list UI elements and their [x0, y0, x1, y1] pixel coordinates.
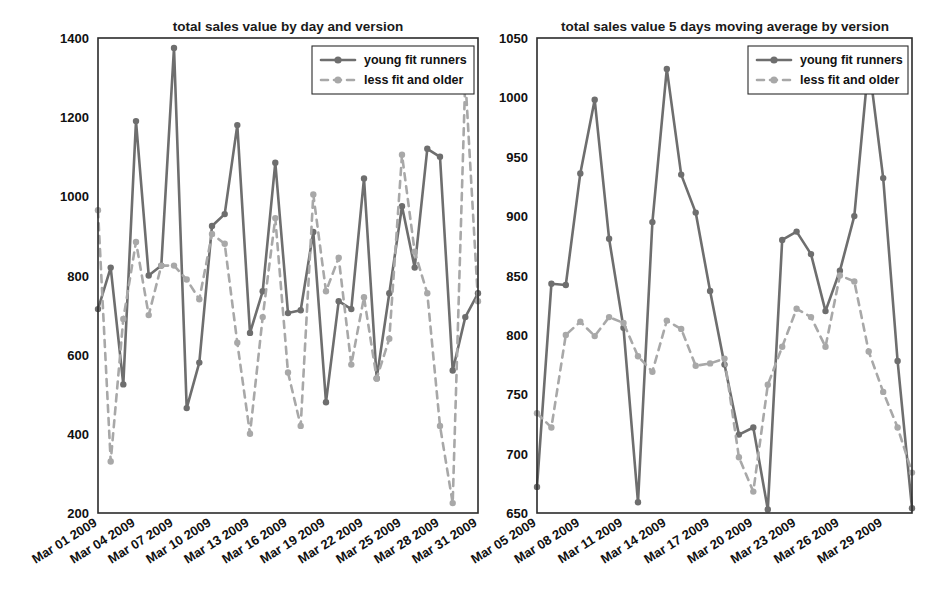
data-point-marker: [386, 336, 392, 342]
data-point-marker: [822, 308, 828, 314]
data-point-marker: [222, 211, 228, 217]
data-point-marker: [133, 239, 139, 245]
data-point-marker: [336, 298, 342, 304]
y-tick-label: 750: [506, 387, 528, 402]
series-line-less-fit-and-older: [98, 78, 478, 504]
y-tick-label: 600: [67, 348, 89, 363]
y-tick-label: 1000: [60, 189, 89, 204]
data-point-marker: [260, 314, 266, 320]
data-point-marker: [750, 488, 756, 494]
data-point-marker: [437, 154, 443, 160]
data-point-marker: [592, 97, 598, 103]
left-y-tick-labels: 200400600800100012001400: [60, 31, 89, 521]
data-point-marker: [808, 314, 814, 320]
data-point-marker: [171, 262, 177, 268]
data-point-marker: [577, 319, 583, 325]
data-point-marker: [837, 272, 843, 278]
chart-panel-left: total sales value by day and version 200…: [0, 0, 500, 595]
data-point-marker: [606, 314, 612, 320]
data-point-marker: [412, 249, 418, 255]
y-tick-label: 800: [506, 328, 528, 343]
data-point-marker: [412, 264, 418, 270]
data-point-marker: [158, 262, 164, 268]
right-legend[interactable]: young fit runnersless fit and older: [748, 46, 908, 94]
legend-entry-label: young fit runners: [800, 53, 903, 67]
left-legend[interactable]: young fit runnersless fit and older: [312, 46, 474, 94]
data-point-marker: [851, 278, 857, 284]
data-point-marker: [108, 264, 114, 270]
data-point-marker: [880, 389, 886, 395]
data-point-marker: [108, 458, 114, 464]
data-point-marker: [808, 251, 814, 257]
y-tick-label: 700: [506, 447, 528, 462]
data-point-marker: [548, 281, 554, 287]
data-point-marker: [894, 358, 900, 364]
data-point-marker: [209, 223, 215, 229]
left-chart-title: total sales value by day and version: [173, 19, 403, 34]
legend-entry-label: less fit and older: [364, 73, 463, 87]
data-point-marker: [361, 175, 367, 181]
legend-entry-label: young fit runners: [364, 53, 467, 67]
data-point-marker: [620, 320, 626, 326]
data-point-marker: [750, 424, 756, 430]
data-point-marker: [563, 332, 569, 338]
y-tick-label: 950: [506, 150, 528, 165]
data-point-marker: [721, 355, 727, 361]
right-plot-area: [534, 59, 915, 513]
data-point-marker: [298, 423, 304, 429]
data-point-marker: [606, 236, 612, 242]
data-point-marker: [880, 175, 886, 181]
left-plot-area: [95, 45, 481, 507]
data-point-marker: [793, 306, 799, 312]
y-tick-label: 400: [67, 427, 89, 442]
data-point-marker: [678, 326, 684, 332]
data-point-marker: [374, 375, 380, 381]
data-point-marker: [133, 118, 139, 124]
data-point-marker: [120, 316, 126, 322]
legend-sample-marker: [770, 56, 777, 63]
data-point-marker: [336, 255, 342, 261]
data-point-marker: [424, 290, 430, 296]
data-point-marker: [298, 307, 304, 313]
data-point-marker: [247, 431, 253, 437]
data-point-marker: [424, 146, 430, 152]
data-point-marker: [736, 454, 742, 460]
data-point-marker: [285, 310, 291, 316]
data-point-marker: [779, 237, 785, 243]
data-point-marker: [462, 314, 468, 320]
series-line-less-fit-and-older: [537, 276, 912, 492]
series-line-young-fit-runners: [98, 48, 478, 408]
data-point-marker: [348, 361, 354, 367]
data-point-marker: [635, 353, 641, 359]
legend-sample-marker: [334, 56, 341, 63]
data-point-marker: [779, 344, 785, 350]
legend-entry-label: less fit and older: [800, 73, 899, 87]
right-y-tick-labels: 65070075080085090095010001050: [499, 31, 528, 521]
data-point-marker: [399, 152, 405, 158]
right-chart-svg: total sales value 5 days moving average …: [470, 0, 941, 595]
data-point-marker: [450, 500, 456, 506]
data-point-marker: [664, 66, 670, 72]
data-point-marker: [146, 312, 152, 318]
data-point-marker: [272, 160, 278, 166]
data-point-marker: [272, 215, 278, 221]
data-point-marker: [310, 191, 316, 197]
data-point-marker: [592, 333, 598, 339]
legend-sample-marker: [770, 76, 777, 83]
data-point-marker: [793, 228, 799, 234]
data-point-marker: [146, 272, 152, 278]
data-point-marker: [822, 344, 828, 350]
data-point-marker: [437, 423, 443, 429]
chart-panel-right: total sales value 5 days moving average …: [470, 0, 941, 595]
y-tick-label: 1200: [60, 110, 89, 125]
data-point-marker: [323, 288, 329, 294]
right-chart-title: total sales value 5 days moving average …: [561, 19, 889, 34]
data-point-marker: [184, 405, 190, 411]
right-x-tick-labels: Mar 05 2009Mar 08 2009Mar 11 2009Mar 14 …: [470, 515, 885, 567]
data-point-marker: [693, 209, 699, 215]
data-point-marker: [361, 294, 367, 300]
data-point-marker: [222, 241, 228, 247]
data-point-marker: [247, 330, 253, 336]
data-point-marker: [664, 317, 670, 323]
data-point-marker: [678, 171, 684, 177]
